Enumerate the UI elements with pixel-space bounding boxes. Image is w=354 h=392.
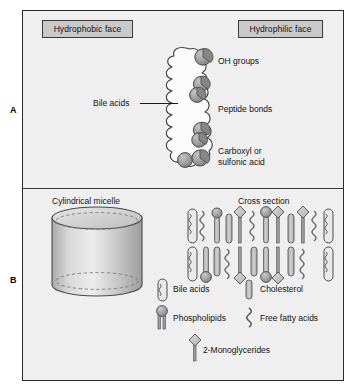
cross-monoglyceride-1-bottom xyxy=(234,247,246,284)
cross-phospholipid-2-bottom xyxy=(261,247,272,282)
cross-bile-acid-right-bottom xyxy=(324,247,333,281)
legend-label-free-fatty-acids: Free fatty acids xyxy=(260,313,318,323)
legend-label-cholesterol: Cholesterol xyxy=(260,284,303,294)
cross-monoglyceride-3-top xyxy=(297,206,309,243)
cross-phospholipid-2-top xyxy=(261,207,272,243)
legend-label-2-monoglycerides: 2-Monoglycerides xyxy=(203,345,270,355)
figure-root: A B Hydrophobic face Hydrophilic face xyxy=(0,0,354,392)
cross-phospholipid-1-top xyxy=(212,208,222,243)
cross-bile-acid-right-top xyxy=(324,209,333,243)
cross-section-diagram xyxy=(188,206,333,284)
legend-label-bile-acids: Bile acids xyxy=(173,284,209,294)
cross-phospholipid-1-bottom xyxy=(201,247,212,282)
phospholipid-icon xyxy=(157,306,168,329)
cross-monoglyceride-2-bottom xyxy=(272,247,284,284)
cross-cholesterol-2-bottom xyxy=(251,247,257,276)
cross-ffa-1-bottom xyxy=(225,249,229,279)
bile-acid-icon xyxy=(158,279,167,301)
cross-ffa-2-bottom xyxy=(300,249,304,279)
cross-ffa-1-top xyxy=(200,211,204,241)
cross-ffa-3-top xyxy=(312,211,316,241)
legend-label-phospholipids: Phospholipids xyxy=(173,313,226,323)
cholesterol-icon xyxy=(246,280,252,299)
cross-cholesterol-1-bottom xyxy=(214,247,220,276)
panel-b-graphics xyxy=(0,0,354,392)
monoglyceride-icon xyxy=(189,334,201,361)
cross-cholesterol-1-top xyxy=(226,214,232,243)
cross-monoglyceride-1-top xyxy=(234,206,246,243)
cylinder-micelle xyxy=(52,207,142,296)
cross-bile-acid-left-bottom xyxy=(188,247,197,281)
cross-bile-acid-left-top xyxy=(188,209,197,243)
cross-cholesterol-2-top xyxy=(288,214,294,243)
cross-cholesterol-3-bottom xyxy=(288,247,294,276)
cross-monoglyceride-2-top xyxy=(272,206,284,243)
cross-ffa-2-top xyxy=(250,211,254,241)
free-fatty-acid-icon xyxy=(247,308,252,327)
